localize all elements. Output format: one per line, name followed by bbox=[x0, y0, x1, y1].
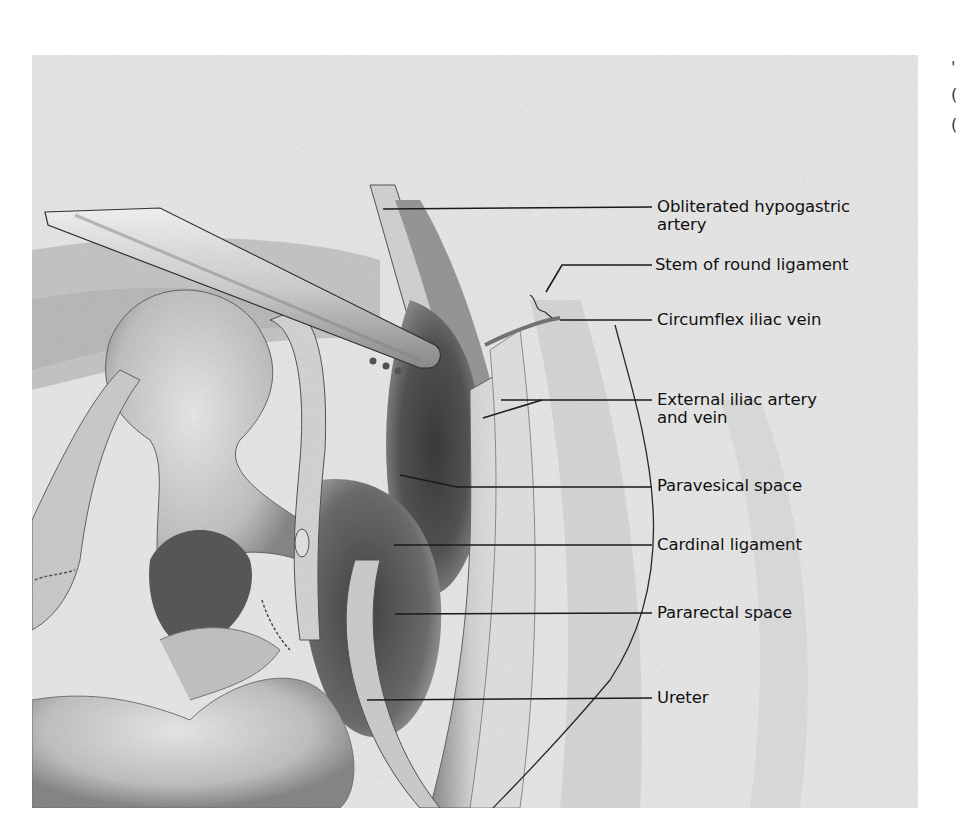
label-obliterated-hypogastric-artery: Obliterated hypogastric artery bbox=[657, 198, 850, 234]
label-line-1: Circumflex iliac vein bbox=[657, 311, 821, 329]
label-line-1: Ureter bbox=[657, 689, 708, 707]
label-line-1: Paravesical space bbox=[657, 477, 802, 495]
label-line-1: External iliac artery bbox=[657, 391, 817, 409]
label-line-1: Obliterated hypogastric bbox=[657, 198, 850, 216]
label-line-1: Cardinal ligament bbox=[657, 536, 802, 554]
label-line-1: Stem of round ligament bbox=[655, 256, 848, 274]
label-line-1: Pararectal space bbox=[657, 604, 792, 622]
label-ureter: Ureter bbox=[657, 689, 708, 707]
label-line-2: artery bbox=[657, 216, 850, 234]
label-cardinal-ligament: Cardinal ligament bbox=[657, 536, 802, 554]
label-pararectal-space: Pararectal space bbox=[657, 604, 792, 622]
edge-glyph: ( bbox=[951, 117, 957, 133]
label-line-2: and vein bbox=[657, 409, 817, 427]
label-external-iliac-artery-and-vein: External iliac artery and vein bbox=[657, 391, 817, 427]
label-stem-of-round-ligament: Stem of round ligament bbox=[655, 256, 848, 274]
label-paravesical-space: Paravesical space bbox=[657, 477, 802, 495]
edge-glyph: ' bbox=[951, 60, 955, 76]
label-circumflex-iliac-vein: Circumflex iliac vein bbox=[657, 311, 821, 329]
edge-glyph: ( bbox=[951, 87, 957, 103]
